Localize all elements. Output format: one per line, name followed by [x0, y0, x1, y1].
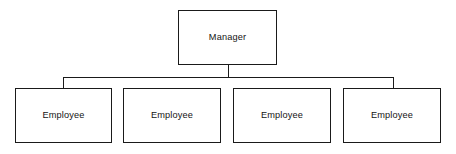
employee-0-drop-connector — [63, 77, 64, 89]
employee-node-3[interactable]: Employee — [343, 88, 441, 143]
manager-node-label: Manager — [209, 33, 246, 42]
employee-node-1-label: Employee — [151, 111, 193, 120]
employee-node-2[interactable]: Employee — [233, 88, 331, 143]
employee-node-1[interactable]: Employee — [123, 88, 221, 143]
org-chart-canvas: Manager Employee Employee Employee Emplo… — [0, 0, 456, 154]
employee-node-2-label: Employee — [261, 111, 303, 120]
horizontal-bus-connector — [63, 77, 393, 78]
employee-node-0-label: Employee — [42, 111, 84, 120]
employee-node-0[interactable]: Employee — [15, 88, 112, 143]
employee-node-3-label: Employee — [371, 111, 413, 120]
employee-3-drop-connector — [393, 77, 394, 89]
manager-node[interactable]: Manager — [178, 10, 277, 65]
